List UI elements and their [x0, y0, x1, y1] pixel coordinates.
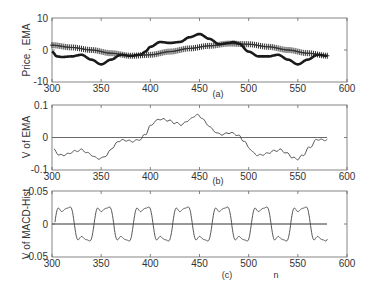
xtick-label: 550 [289, 83, 306, 94]
panel-c-caption: (c) [222, 270, 233, 280]
xtick-label: 350 [93, 171, 110, 182]
xtick-label: 550 [289, 171, 306, 182]
xtick-label: 450 [191, 171, 208, 182]
xtick-label: 450 [191, 258, 208, 269]
panel-b-vema-series [54, 114, 327, 160]
xtick-label: 600 [339, 83, 356, 94]
panel-b-xtick-labels: 300350400450500550600 [44, 171, 356, 182]
xtick-label: 450 [191, 83, 208, 94]
panel-a-ytick-mid: 0 [42, 45, 48, 56]
panel-c-ylabel: V of MACD-Hist [21, 188, 32, 259]
xtick-label: 350 [93, 83, 110, 94]
panel-b-ytick-mid: 0 [42, 132, 48, 143]
panel-a-ema-series [50, 41, 329, 59]
panel-c: V of MACD-Hist 0.05 0 -0.05 300350400450… [21, 186, 356, 280]
xtick-label: 600 [339, 258, 356, 269]
panel-c-xtick-labels: 300350400450500550600 [44, 258, 356, 269]
panel-b: V of EMA 0.1 0 -0.1 30035040045050055060… [21, 100, 356, 186]
xtick-label: 550 [289, 258, 306, 269]
panel-c-xlabel: n [273, 270, 278, 280]
xtick-label: 600 [339, 171, 356, 182]
panel-a-ylabel: Price , EMA [21, 23, 32, 76]
xtick-label: 500 [240, 83, 257, 94]
xtick-label: 300 [44, 171, 61, 182]
panel-b-ylabel: V of EMA [21, 116, 32, 159]
panel-c-ytick-top: 0.05 [29, 186, 49, 197]
xtick-label: 400 [142, 83, 159, 94]
panel-a: Price , EMA 10 0 -10 3003504004505005506… [21, 13, 356, 99]
xtick-label: 300 [44, 83, 61, 94]
xtick-label: 400 [142, 171, 159, 182]
panel-c-ytick-mid: 0 [42, 219, 48, 230]
chart-figure: Price , EMA 10 0 -10 3003504004505005506… [0, 0, 371, 296]
xtick-label: 300 [44, 258, 61, 269]
panel-b-caption: (b) [213, 176, 224, 186]
xtick-label: 400 [142, 258, 159, 269]
panel-a-caption: (a) [213, 89, 224, 99]
xtick-label: 350 [93, 258, 110, 269]
xtick-label: 500 [240, 171, 257, 182]
panel-b-ytick-top: 0.1 [34, 100, 48, 111]
panel-a-ytick-top: 10 [37, 13, 49, 24]
xtick-label: 500 [240, 258, 257, 269]
panel-a-xtick-labels: 300350400450500550600 [44, 83, 356, 94]
